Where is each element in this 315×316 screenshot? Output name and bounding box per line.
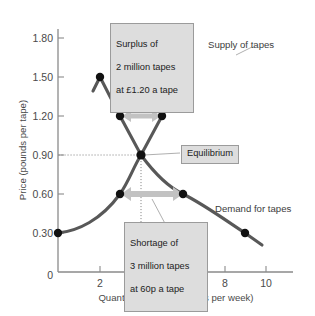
- shortage-callout: Shortage of 3 million tapes at 60p a tap…: [124, 222, 208, 312]
- equilibrium-point: [136, 150, 145, 159]
- y-tick-labels: 1.80 1.50 1.20 0.90 0.60 0.30 0: [33, 32, 54, 282]
- y-tick-label: 0.30: [33, 227, 54, 239]
- demand-point-6-060: [179, 190, 187, 198]
- y-tick-label: 1.80: [33, 32, 54, 44]
- y-tick-label: 0.60: [33, 188, 54, 200]
- demand-point-9-030: [241, 229, 249, 237]
- y-tick-label: 1.20: [33, 110, 54, 122]
- y-axis-ticks: [58, 38, 64, 233]
- supply-point-3-060: [116, 190, 124, 198]
- x-tick-label: 10: [260, 277, 272, 289]
- y-axis-title: Price (pounds per tape): [17, 100, 28, 200]
- shortage-callout-line1: Shortage of: [130, 238, 202, 250]
- equilibrium-leader-line: [144, 153, 180, 155]
- supply-point-0-030: [54, 229, 62, 237]
- equilibrium-callout: Equilibrium: [181, 145, 239, 164]
- surplus-callout-line2: 2 million tapes: [116, 62, 188, 74]
- supply-demand-chart: 1.80 1.50 1.20 0.90 0.60 0.30 0 2 4 6 8 …: [0, 0, 315, 316]
- y-tick-label: 0.90: [33, 149, 54, 161]
- y-tick-label: 1.50: [33, 71, 54, 83]
- y-tick-label-zero: 0: [47, 269, 53, 281]
- shortage-callout-line3: at 60p a tape: [130, 284, 202, 296]
- surplus-callout-line1: Surplus of: [116, 39, 188, 51]
- demand-point-2-150: [96, 73, 104, 81]
- supply-curve-label: Supply of tapes: [208, 39, 274, 50]
- shortage-callout-line2: 3 million tapes: [130, 261, 202, 273]
- shortage-arrow-icon: [121, 187, 183, 201]
- surplus-callout-line3: at £1.20 a tape: [116, 85, 188, 97]
- x-tick-label: 8: [222, 277, 228, 289]
- x-tick-label: 2: [97, 277, 103, 289]
- surplus-callout: Surplus of 2 million tapes at £1.20 a ta…: [110, 23, 194, 113]
- demand-curve-label: Demand for tapes: [215, 203, 291, 214]
